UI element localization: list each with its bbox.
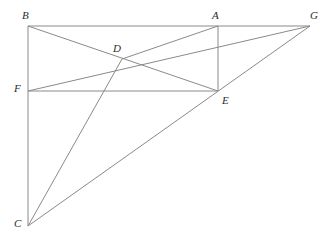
segment-C-G: [28, 26, 310, 226]
vertex-label-a: A: [212, 10, 219, 21]
segment-D-A: [122, 26, 218, 59]
geometry-figure: ABCDEFG: [0, 0, 330, 240]
segments-group: [28, 26, 310, 226]
segment-D-C: [28, 59, 122, 226]
vertex-label-b: B: [22, 10, 29, 21]
vertex-label-f: F: [14, 83, 21, 94]
segment-F-G: [28, 26, 310, 91]
vertex-label-c: C: [14, 218, 21, 229]
vertex-label-g: G: [310, 10, 318, 21]
vertex-label-e: E: [222, 95, 229, 106]
figure-canvas: [0, 0, 330, 240]
vertex-label-d: D: [113, 43, 121, 54]
